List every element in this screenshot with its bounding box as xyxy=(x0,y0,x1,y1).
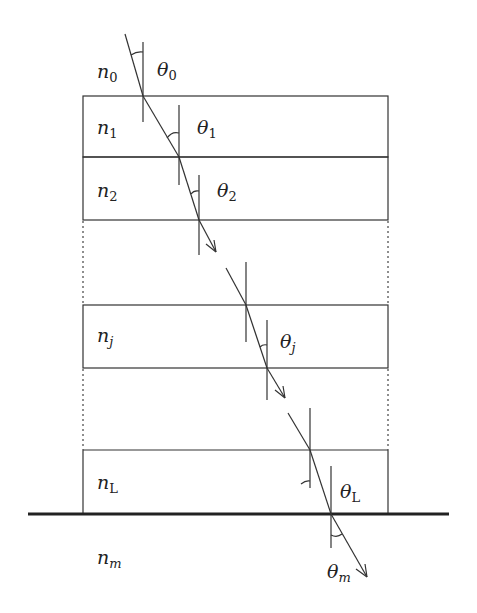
label-n0: n0 xyxy=(97,62,118,84)
label-n1: n1 xyxy=(97,118,118,140)
surface-normals xyxy=(143,42,331,548)
arc-theta-m xyxy=(331,534,342,536)
layer-boundaries xyxy=(83,96,388,513)
label-nj: nj xyxy=(97,326,113,348)
label-nL: nL xyxy=(97,473,118,495)
label-nm: nm xyxy=(97,548,122,570)
label-thetaL: θL xyxy=(340,482,360,504)
label-n2: n2 xyxy=(97,181,118,203)
multilayer-diagram xyxy=(0,0,477,613)
label-theta0: θ0 xyxy=(157,60,177,82)
arrowhead-icon xyxy=(275,386,285,398)
label-thetaj: θj xyxy=(280,332,295,354)
omitted-layers-dotted xyxy=(83,221,388,450)
layer-1-box xyxy=(83,96,388,157)
label-theta1: θ1 xyxy=(197,118,217,140)
label-theta2: θ2 xyxy=(217,181,237,203)
layer-j-box xyxy=(83,305,388,368)
label-thetam: θm xyxy=(327,562,351,584)
